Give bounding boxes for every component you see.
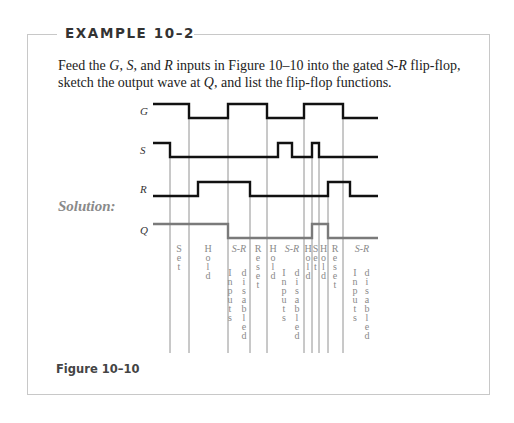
interval-reset-1-letters: R e s e t — [255, 243, 262, 290]
interval-hold-4: H o l d — [320, 243, 327, 281]
interval-disabled-1: S-R I n p u t s d i s a b l e d — [228, 243, 247, 341]
svg-text:s: s — [228, 312, 232, 323]
interval-hold-3: H o l d — [304, 243, 311, 281]
svg-text:d: d — [271, 270, 276, 281]
svg-text:d: d — [206, 270, 211, 281]
signal-label-q: Q — [140, 224, 148, 236]
signal-label-r: R — [139, 183, 147, 195]
interval-set-2: S e t — [313, 243, 319, 272]
waveform-s — [153, 143, 378, 157]
interval-hold-2: H o l d — [269, 243, 276, 281]
interval-hold-1: H o l d — [204, 243, 211, 281]
svg-text:t: t — [334, 279, 337, 290]
svg-text:S-R: S-R — [232, 243, 246, 254]
svg-text:t: t — [257, 279, 260, 290]
interval-reset-2: R e s e t — [332, 243, 339, 290]
signal-label-s: S — [140, 144, 146, 156]
svg-text:s: s — [353, 312, 357, 323]
interval-disabled-2: S-R I n p u t s d i s a b l e d — [282, 243, 300, 341]
timing-diagram: G S R Q S e t H o l d S-R I n p u t s d … — [0, 0, 514, 423]
svg-text:d: d — [306, 270, 311, 281]
waveform-g — [153, 104, 378, 118]
svg-text:s: s — [282, 312, 286, 323]
svg-text:d: d — [321, 270, 326, 281]
svg-text:d: d — [242, 330, 247, 341]
figure-caption: Figure 10–10 — [56, 362, 139, 376]
svg-text:d: d — [295, 330, 300, 341]
waveform-r — [153, 182, 378, 196]
svg-text:t: t — [314, 261, 317, 272]
signal-label-g: G — [140, 105, 148, 117]
transition-lines — [170, 118, 343, 353]
interval-set-1: S e t — [176, 243, 182, 272]
svg-text:t: t — [178, 261, 181, 272]
interval-disabled-3: S-R I n p u t s d i s a b l e d — [353, 243, 370, 341]
waveform-q — [153, 224, 378, 238]
svg-text:S-R: S-R — [285, 243, 299, 254]
svg-text:d: d — [365, 330, 370, 341]
svg-text:S-R: S-R — [355, 243, 369, 254]
